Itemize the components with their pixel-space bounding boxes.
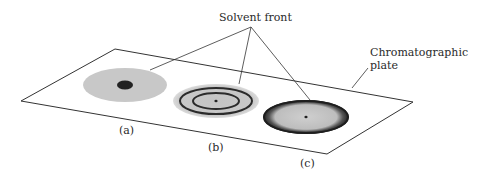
spot-a-label: (a) (119, 124, 134, 137)
plate-leader (352, 68, 368, 88)
spot-b (173, 84, 259, 118)
spot-b-label: (b) (208, 141, 224, 154)
spot-a (83, 68, 167, 102)
spot-c (263, 100, 349, 134)
solvent-front-label: Solvent front (219, 11, 292, 24)
chromatography-diagram: Solvent front Chromatographic plate (a) … (0, 0, 478, 176)
plate-label-line2: plate (370, 59, 398, 72)
plate-label-line1: Chromatographic (370, 46, 468, 59)
spot-c-label: (c) (300, 157, 315, 170)
diagram-canvas (0, 0, 478, 176)
